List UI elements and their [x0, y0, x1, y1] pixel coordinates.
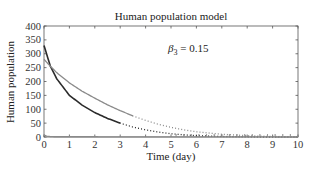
y-tick-label: 350	[25, 34, 41, 45]
x-tick-label: 10	[293, 139, 304, 150]
annotation-beta: β3 = 0.15	[167, 42, 209, 57]
x-tick-label: 6	[194, 139, 199, 150]
x-tick-label: 3	[118, 139, 123, 150]
plot-area: 012345678910050100150200250300350400	[25, 21, 303, 151]
chart: Human population model 01234567891005010…	[0, 0, 312, 179]
x-tick-label: 8	[245, 139, 250, 150]
y-tick-label: 50	[31, 118, 42, 129]
y-tick-label: 300	[25, 48, 41, 59]
series-gray-curve	[44, 59, 298, 137]
y-tick-label: 100	[25, 104, 41, 115]
y-tick-label: 250	[25, 62, 41, 73]
y-axis-label: Human population	[4, 40, 16, 123]
x-tick-label: 5	[168, 139, 173, 150]
x-axis-label: Time (day)	[147, 150, 196, 163]
x-tick-label: 7	[219, 139, 224, 150]
y-tick-label: 150	[25, 90, 41, 101]
chart-title: Human population model	[115, 10, 227, 22]
y-tick-label: 200	[25, 76, 41, 87]
x-tick-label: 2	[92, 139, 97, 150]
x-tick-label: 0	[41, 139, 46, 150]
x-tick-label: 4	[143, 139, 149, 150]
x-tick-label: 1	[67, 139, 72, 150]
y-tick-label: 0	[36, 132, 41, 143]
y-tick-label: 400	[25, 21, 41, 32]
x-tick-label: 9	[270, 139, 275, 150]
